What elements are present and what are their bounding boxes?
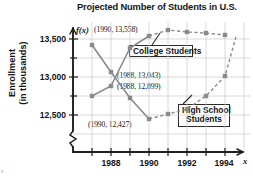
marker-hs-1987 [90,43,94,47]
college-markers [90,28,227,98]
marker-college-1987 [90,94,94,98]
marker-college-1994 [223,33,227,37]
series-college-students [90,28,227,98]
series-high-school-students [90,37,236,121]
callout-leader-lines [152,33,192,104]
marker-hs-1990 [147,117,151,121]
marker-hs-1992 [185,107,189,111]
marker-college-1991 [166,28,170,32]
marker-college-1990 [147,34,151,38]
marker-college-1992 [185,30,189,34]
marker-college-1993 [204,31,208,35]
college-solid-line [92,36,149,96]
marker-college-1989 [128,46,132,50]
chart-plot-svg [0,0,253,176]
marker-hs-1988 [109,70,113,74]
marker-hs-1994 [223,74,227,78]
high-school-markers [90,43,227,121]
marker-hs-1993 [204,94,208,98]
marker-hs-1989 [128,96,132,100]
chart-figure: Projected Number of Students in U.S. Enr… [0,0,253,176]
marker-college-1988 [109,84,113,88]
page-caret-mark: › [1,168,3,175]
y-axis-break-symbol [70,131,76,147]
high-school-solid-line [92,45,149,119]
grid-lines [73,22,250,152]
axes [70,28,243,155]
marker-hs-1991 [166,112,170,116]
